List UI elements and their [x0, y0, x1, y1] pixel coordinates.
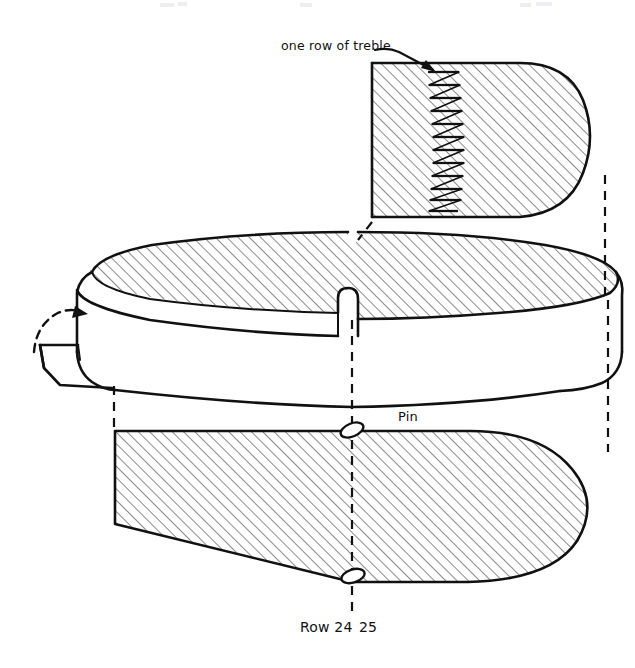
top-flap-panel: [360, 55, 610, 230]
body-right-wall-lower: [560, 352, 622, 391]
diagram-canvas: one row of treble: [0, 0, 635, 668]
body-left-wall-lower: [77, 352, 115, 390]
scan-noise: [160, 2, 552, 7]
bottom-sole-panel: [105, 419, 615, 595]
tab-left-edge: [40, 345, 44, 368]
body-centre-notch: [338, 288, 358, 319]
pattern-diagram: one row of treble: [0, 0, 635, 668]
pin-label: Pin: [398, 409, 418, 424]
fold-arrowhead: [72, 306, 88, 318]
left-folded-tab: [34, 306, 112, 388]
body-bottom-edge: [115, 390, 560, 407]
three-dimensional-slipper-body: [77, 225, 630, 407]
row-label: Row 24: [300, 619, 353, 635]
row-label-second: 25: [359, 619, 377, 635]
